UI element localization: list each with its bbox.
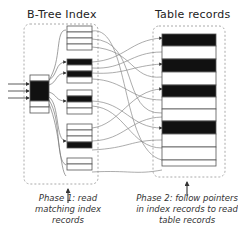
index-leaf-column: [67, 26, 92, 170]
table-records-column: [162, 34, 216, 166]
phase1-line3: records: [30, 215, 106, 226]
phase1-line1: Phase 1: read: [30, 193, 106, 204]
root-node: [30, 75, 49, 113]
phase1-caption: Phase 1: read matching index records: [30, 193, 106, 226]
root-to-leaf-curves: [49, 30, 66, 176]
phase1-line2: matching index: [30, 204, 106, 215]
incoming-arrows: [8, 84, 29, 98]
phase2-caption: Phase 2: follow pointers in index record…: [133, 193, 238, 226]
phase2-line1: Phase 2: follow pointers: [133, 193, 238, 204]
pointer-curves: [92, 31, 162, 173]
phase2-line3: table records: [133, 215, 238, 226]
phase2-line2: in index records to read: [133, 204, 238, 215]
